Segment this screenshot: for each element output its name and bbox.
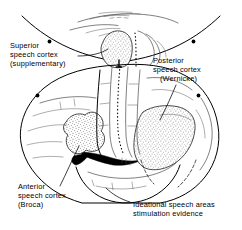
label-superior-line1: Superior — [10, 41, 40, 50]
label-anterior-line2: speech cortex — [18, 191, 66, 200]
label-anterior-line3: (Broca) — [18, 200, 43, 209]
diagram-canvas: Superior speech cortex (supplementary) P… — [0, 0, 242, 230]
label-ideational-line1: Ideational speech areas — [133, 200, 215, 209]
label-ideational-line2: stimulation evidence — [133, 209, 203, 218]
label-anterior-line1: Anterior — [18, 182, 45, 191]
label-posterior-line1: Posterior — [153, 56, 184, 65]
outline-marker-left-icon — [36, 94, 40, 98]
speech-cortex-figure: Superior speech cortex (supplementary) P… — [0, 0, 242, 230]
arc-marker-right-icon — [192, 40, 196, 44]
outline-marker-right-icon — [197, 94, 201, 98]
label-posterior-line2: speech cortex — [153, 65, 201, 74]
arc-marker-left-icon — [48, 40, 52, 44]
label-posterior-line3: (Wernicke) — [160, 74, 197, 83]
label-superior-line2: speech cortex — [10, 50, 58, 59]
label-superior-line3: (supplementary) — [10, 59, 66, 68]
